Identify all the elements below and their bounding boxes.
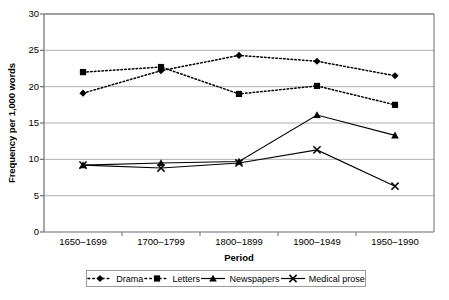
legend-item-letters[interactable]: Letters	[144, 273, 201, 284]
legend-marker-square	[153, 275, 159, 281]
legend-marker-diamond	[97, 275, 104, 282]
y-axis-tick-label: 10	[17, 154, 39, 164]
legend-label: Drama	[116, 274, 143, 284]
y-axis-tick-label: 25	[17, 45, 39, 55]
y-axis-tick-label: 30	[17, 9, 39, 19]
y-axis-tick-label: 0	[17, 227, 39, 237]
legend-key-triangle-icon	[200, 273, 226, 284]
x-axis-tick-label: 1650–1699	[44, 236, 122, 247]
legend-key-cross-icon	[280, 273, 306, 284]
legend-item-drama[interactable]: Drama	[87, 273, 143, 284]
legend-key-square-icon	[144, 273, 170, 284]
legend-label: Newspapers	[229, 274, 279, 284]
x-axis-tick-label: 1700–1799	[122, 236, 200, 247]
legend-label: Letters	[173, 274, 201, 284]
x-axis-tick-label: 1900–1949	[278, 236, 356, 247]
legend-item-medical-prose[interactable]: Medical prose	[280, 273, 365, 284]
y-axis-tick-label: 5	[17, 191, 39, 201]
y-axis-tick-label: 15	[17, 118, 39, 128]
chart-container: Frequency per 1,000 words 051015202530 1…	[0, 0, 449, 300]
x-axis-tick-label: 1950–1990	[356, 236, 434, 247]
data-point-marker-square	[158, 64, 164, 70]
legend-label: Medical prose	[309, 274, 365, 284]
y-axis-tick-label: 20	[17, 82, 39, 92]
data-point-marker-square	[80, 69, 86, 75]
x-axis-title: Period	[44, 252, 434, 263]
data-point-marker-square	[236, 91, 242, 97]
data-point-marker-square	[392, 102, 398, 108]
legend-item-newspapers[interactable]: Newspapers	[200, 273, 279, 284]
data-point-marker-square	[314, 83, 320, 89]
legend-key-diamond-icon	[87, 273, 113, 284]
x-axis-tick-label: 1800–1899	[200, 236, 278, 247]
chart-legend: DramaLettersNewspapersMedical prose	[86, 270, 366, 287]
